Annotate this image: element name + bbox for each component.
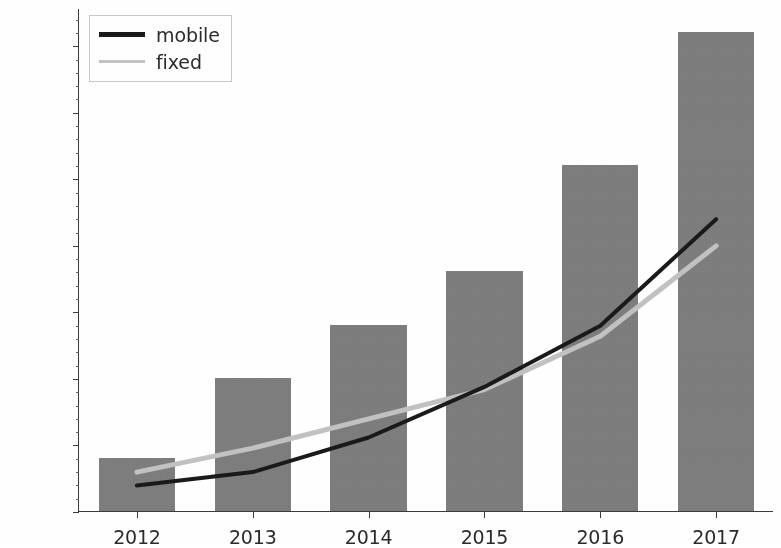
x-tick-mark: [137, 512, 138, 518]
legend-entry-fixed: fixed: [99, 48, 220, 75]
x-tick-mark: [253, 512, 254, 518]
x-tick-mark: [600, 512, 601, 518]
plot-inner: [79, 9, 773, 511]
line-series-overlay: [79, 9, 773, 511]
x-tick-label: 2014: [309, 526, 429, 548]
x-tick-label: 2017: [656, 526, 776, 548]
legend-entry-mobile: mobile: [99, 21, 220, 48]
bar-2014: [330, 325, 406, 511]
bar-2012: [99, 458, 175, 511]
legend-label-mobile: mobile: [156, 24, 220, 46]
x-tick-mark: [484, 512, 485, 518]
bar-2013: [215, 378, 291, 511]
x-tick-mark: [369, 512, 370, 518]
legend-swatch-fixed-icon: [99, 55, 145, 69]
x-tick-label: 2013: [193, 526, 313, 548]
plot-area: 025005000750010000125001500017500 201220…: [78, 9, 773, 512]
chart-legend: mobile fixed: [89, 15, 232, 82]
x-tick-label: 2016: [540, 526, 660, 548]
x-tick-label: 2015: [424, 526, 544, 548]
bar-2015: [446, 271, 522, 511]
y-tick-mark: [73, 512, 79, 513]
bar-2016: [562, 165, 638, 511]
bar-2017: [678, 32, 754, 511]
x-tick-mark: [716, 512, 717, 518]
legend-label-fixed: fixed: [156, 51, 202, 73]
legend-swatch-mobile-icon: [99, 28, 145, 42]
x-tick-label: 2012: [77, 526, 197, 548]
